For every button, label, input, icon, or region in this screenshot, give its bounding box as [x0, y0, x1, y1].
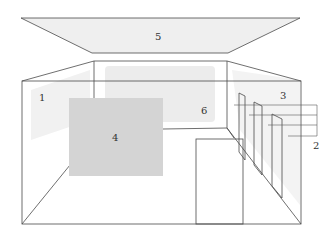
label-panel: 4 — [112, 132, 118, 143]
label-right-wall: 3 — [280, 90, 286, 101]
label-callout: 2 — [313, 140, 319, 151]
label-left-wall: 1 — [39, 92, 45, 103]
right-wall-shading — [232, 70, 300, 205]
counter-box — [196, 139, 243, 224]
floor-back-edge — [163, 128, 227, 129]
label-back-wall: 6 — [201, 105, 207, 116]
floor-right-inner — [227, 128, 234, 138]
floor-left-diagonal — [22, 165, 70, 224]
room-diagram: 5 1 3 4 6 2 — [0, 0, 336, 240]
label-ceiling: 5 — [155, 31, 161, 42]
